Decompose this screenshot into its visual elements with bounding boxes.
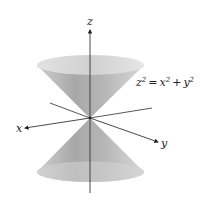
upper-cone (37, 55, 144, 118)
z-axis-label: z (86, 15, 93, 28)
eq-term2-exp: 2 (189, 76, 195, 84)
x-axis (25, 118, 90, 128)
lower-cone (37, 118, 144, 182)
origin-point (89, 117, 92, 120)
x-axis-back (90, 108, 152, 118)
equation-label: z2=x2+y2 (135, 76, 195, 89)
eq-equals: = (148, 76, 157, 89)
eq-lhs-exp: 2 (141, 76, 147, 84)
eq-term1-exp: 2 (165, 76, 171, 84)
double-cone-figure: z x y z2=x2+y2 (0, 0, 201, 207)
eq-plus: + (172, 76, 181, 89)
y-axis-label: y (160, 137, 168, 150)
x-axis-label: x (16, 122, 23, 135)
